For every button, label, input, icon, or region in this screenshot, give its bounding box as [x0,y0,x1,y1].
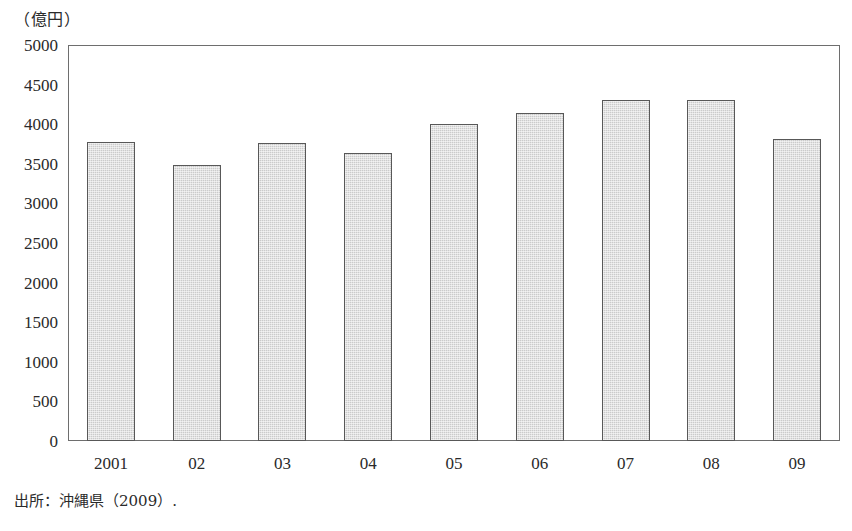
y-axis-tick-label: 4500 [24,76,58,93]
x-axis-tick-label: 05 [446,455,463,472]
y-axis-tick-label: 2000 [24,274,58,291]
y-axis-tick-label: 500 [33,393,59,410]
bar [773,139,821,441]
bar [430,124,478,441]
bar [344,153,392,441]
x-axis-tick-label: 08 [703,455,720,472]
y-axis-tick-label: 4000 [24,116,58,133]
bar-slot [68,45,154,441]
y-axis-tick-label: 3500 [24,155,58,172]
x-axis-tick-label: 09 [789,455,806,472]
y-axis-tick-label: 5000 [24,37,58,54]
bar-chart-figure: （億円） 50004500400035003000250020001500100… [0,0,852,531]
bars-layer [68,45,840,441]
x-axis: 20010203040506070809 [68,441,840,481]
y-axis-tick-label: 2500 [24,235,58,252]
bar-slot [497,45,583,441]
y-axis-tick-label: 3000 [24,195,58,212]
y-axis-tick-label: 1500 [24,314,58,331]
bar-slot [583,45,669,441]
x-axis-tick-label: 03 [274,455,291,472]
bar [687,100,735,441]
y-axis-tick-label: 1000 [24,353,58,370]
y-axis-unit-caption: （億円） [14,6,80,30]
x-axis-tick-label: 02 [188,455,205,472]
bar-slot [668,45,754,441]
y-axis: 5000450040003500300025002000150010005000 [0,45,68,441]
bar [173,165,221,441]
bar-slot [240,45,326,441]
bar-slot [754,45,840,441]
bar-slot [154,45,240,441]
x-axis-tick-label: 07 [617,455,634,472]
bar-slot [411,45,497,441]
source-note: 出所：沖縄県（2009）. [14,494,177,509]
x-axis-tick-label: 2001 [94,455,128,472]
bar [516,113,564,441]
bar [602,100,650,441]
bar [258,143,306,441]
y-axis-tick-label: 0 [50,433,59,450]
x-axis-tick-label: 04 [360,455,377,472]
bar-slot [325,45,411,441]
x-axis-tick-label: 06 [531,455,548,472]
bar [87,142,135,441]
